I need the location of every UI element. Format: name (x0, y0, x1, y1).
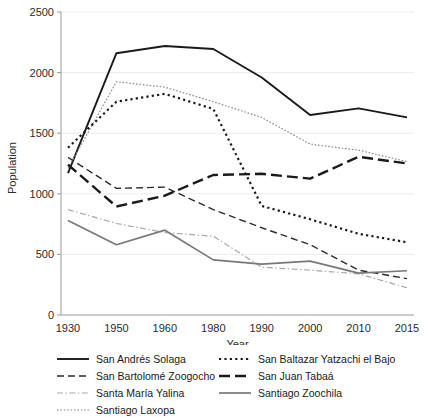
legend-line-swatch-icon (56, 388, 90, 398)
legend-item[interactable]: San Andrés Solaga (56, 351, 218, 366)
legend-item[interactable]: Santiago Zoochila (218, 385, 418, 400)
y-tick-label: 1000 (30, 188, 54, 200)
legend-line-swatch-icon (218, 371, 252, 381)
x-tick-label: 2010 (346, 322, 370, 334)
y-tick-label: 2000 (30, 67, 54, 79)
legend-item-label: San Bartolomé Zoogocho (96, 370, 215, 382)
legend-line-swatch-icon (218, 354, 252, 364)
series-line (68, 94, 407, 242)
population-line-chart: 05001000150020002500 1930195019601980199… (0, 0, 427, 417)
y-axis-ticks: 05001000150020002500 (30, 6, 61, 321)
x-tick-label: 2000 (298, 322, 322, 334)
legend-item-label: Santiago Zoochila (258, 387, 342, 399)
x-tick-label: 1960 (153, 322, 177, 334)
x-tick-label: 1990 (249, 322, 273, 334)
chart-legend: San Andrés SolagaSan Bartolomé ZoogochoS… (0, 345, 427, 417)
legend-item[interactable]: Santa María Yalina (56, 385, 218, 400)
legend-item[interactable]: San Bartolomé Zoogocho (56, 368, 218, 383)
y-axis-title: Population (6, 142, 18, 194)
y-tick-label: 2500 (30, 6, 54, 18)
legend-item-label: Santa María Yalina (96, 387, 184, 399)
chart-svg: 05001000150020002500 1930195019601980199… (0, 0, 427, 345)
y-tick-label: 500 (36, 248, 54, 260)
legend-item[interactable]: San Baltazar Yatzachi el Bajo (218, 351, 418, 366)
y-tick-label: 0 (48, 309, 54, 321)
series-line (68, 157, 407, 207)
legend-line-swatch-icon (56, 371, 90, 381)
legend-item-label: San Andrés Solaga (96, 353, 186, 365)
plot-area: 05001000150020002500 1930195019601980199… (0, 0, 427, 345)
legend-line-swatch-icon (56, 354, 90, 364)
series-lines (68, 46, 407, 288)
legend-item[interactable]: Santiago Laxopa (56, 402, 218, 417)
x-tick-label: 2015 (395, 322, 419, 334)
x-axis-title: Year (226, 338, 249, 345)
series-line (68, 210, 407, 288)
legend-line-swatch-icon (218, 388, 252, 398)
series-line (68, 220, 407, 273)
x-tick-label: 1980 (201, 322, 225, 334)
x-axis-ticks: 19301950196019801990200020102015 (56, 322, 419, 334)
series-line (68, 46, 407, 173)
legend-item[interactable]: San Juan Tabaá (218, 368, 418, 383)
y-tick-label: 1500 (30, 127, 54, 139)
legend-column-right: San Baltazar Yatzachi el BajoSan Juan Ta… (218, 351, 418, 400)
legend-column-left: San Andrés SolagaSan Bartolomé ZoogochoS… (56, 351, 218, 417)
legend-item-label: San Baltazar Yatzachi el Bajo (258, 353, 395, 365)
legend-item-label: Santiago Laxopa (96, 404, 175, 416)
legend-line-swatch-icon (56, 405, 90, 415)
gridlines (61, 12, 414, 254)
legend-item-label: San Juan Tabaá (258, 370, 334, 382)
x-tick-label: 1950 (104, 322, 128, 334)
x-tick-label: 1930 (56, 322, 80, 334)
series-line (68, 82, 407, 169)
series-line (68, 157, 407, 278)
